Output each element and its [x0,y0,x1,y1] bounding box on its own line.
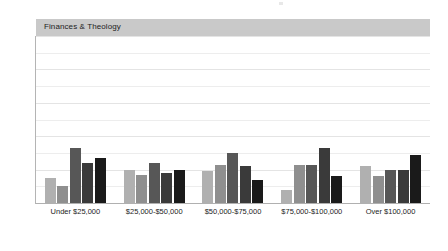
bar[interactable] [306,165,317,203]
bar-group [194,36,273,203]
chart-container: Finances & Theology 0%20%40%60%80%100% U… [0,0,448,251]
bar[interactable] [45,178,56,203]
bar[interactable] [398,170,409,203]
bar[interactable] [174,170,185,203]
x-axis-category-label: $75,000-$100,000 [272,207,351,216]
bar[interactable] [385,170,396,203]
bar-group [36,36,115,203]
bar[interactable] [294,165,305,203]
bar[interactable] [252,180,263,203]
bar[interactable] [319,148,330,203]
bar[interactable] [70,148,81,203]
bar[interactable] [410,155,421,203]
bar[interactable] [136,175,147,203]
bar[interactable] [57,186,68,203]
bar-group [115,36,194,203]
bar[interactable] [281,190,292,203]
bar[interactable] [240,166,251,203]
x-axis-line [36,203,430,204]
bar[interactable] [82,163,93,203]
x-axis-category-label: $50,000-$75,000 [194,207,273,216]
bar[interactable] [331,176,342,203]
bar[interactable] [360,166,371,203]
bar[interactable] [124,170,135,203]
bar[interactable] [161,173,172,203]
bar[interactable] [215,165,226,203]
x-axis-category-label: Over $100,000 [351,207,430,216]
bar[interactable] [202,171,213,203]
bar[interactable] [373,176,384,203]
panel-header: Finances & Theology [36,19,430,36]
bar-group [272,36,351,203]
bar[interactable] [95,158,106,203]
x-axis-category-label: Under $25,000 [36,207,115,216]
x-axis-category-label: $25,000-$50,000 [115,207,194,216]
bar[interactable] [227,153,238,203]
stray-artifact [279,2,283,5]
bar-group [351,36,430,203]
bar[interactable] [149,163,160,203]
panel-header-label: Finances & Theology [44,22,121,31]
plot-area [36,36,430,203]
